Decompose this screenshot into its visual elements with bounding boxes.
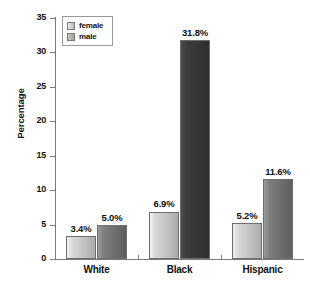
bar-value-label: 11.6% bbox=[255, 166, 301, 177]
y-axis-tick-label: 10 bbox=[6, 184, 46, 194]
legend-label-male: male bbox=[79, 32, 96, 42]
y-axis-tick bbox=[50, 156, 55, 157]
y-axis-tick-label: 15 bbox=[6, 150, 46, 160]
y-axis-tick bbox=[50, 259, 55, 260]
y-axis-tick-label: 30 bbox=[6, 46, 46, 56]
y-axis-tick bbox=[50, 225, 55, 226]
y-axis-tick bbox=[50, 121, 55, 122]
y-axis-tick-label: 0 bbox=[6, 253, 46, 263]
female-swatch-icon bbox=[67, 22, 75, 30]
category-label-white: White bbox=[55, 264, 138, 275]
legend: female male bbox=[62, 16, 113, 46]
bar-black-female bbox=[149, 212, 179, 260]
y-axis-tick bbox=[50, 87, 55, 88]
x-axis-line bbox=[55, 259, 304, 260]
category-label-hispanic: Hispanic bbox=[221, 264, 304, 275]
bar-hispanic-male bbox=[263, 179, 293, 259]
bar-hispanic-female bbox=[232, 223, 262, 259]
x-axis-group-tick bbox=[221, 255, 222, 260]
legend-item-female[interactable]: female bbox=[67, 20, 108, 31]
bar-value-label: 5.0% bbox=[89, 212, 135, 223]
category-label-black: Black bbox=[138, 264, 221, 275]
y-axis-tick-label: 5 bbox=[6, 219, 46, 229]
y-axis-tick-label: 35 bbox=[6, 12, 46, 22]
bar-value-label: 31.8% bbox=[172, 27, 218, 38]
bar-white-female bbox=[66, 236, 96, 259]
legend-item-male[interactable]: male bbox=[67, 31, 108, 42]
y-axis-line bbox=[55, 17, 56, 260]
y-axis-tick bbox=[50, 18, 55, 19]
x-axis-group-tick bbox=[138, 255, 139, 260]
y-axis-tick-label: 20 bbox=[6, 115, 46, 125]
y-axis-tick-label: 25 bbox=[6, 81, 46, 91]
bar-chart: Percentage 05101520253035 3.4%5.0%6.9%31… bbox=[0, 0, 310, 289]
y-axis-tick bbox=[50, 52, 55, 53]
male-swatch-icon bbox=[67, 33, 75, 41]
legend-label-female: female bbox=[79, 21, 103, 31]
bar-black-male bbox=[180, 40, 210, 259]
y-axis-tick bbox=[50, 190, 55, 191]
bar-white-male bbox=[97, 225, 127, 259]
